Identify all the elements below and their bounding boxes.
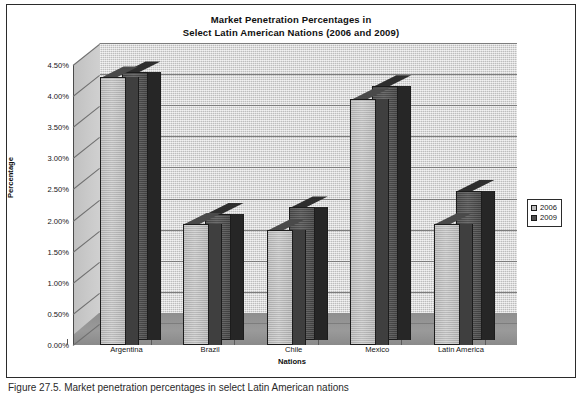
bar-side-face [460, 224, 473, 345]
y-axis-tick-label: 1.50% [33, 248, 69, 257]
y-axis-line [73, 65, 74, 345]
plot-area [47, 33, 517, 343]
y-axis-tick-label: 2.00% [33, 217, 69, 226]
legend-swatch-2006 [531, 205, 537, 211]
y-axis-title: Percentage [6, 157, 15, 198]
bar-side-face [231, 214, 244, 340]
gridline [100, 43, 517, 44]
legend-item-2006: 2006 [531, 203, 557, 213]
bar-side-face [315, 207, 328, 340]
legend-label-2009: 2009 [540, 213, 557, 223]
bar-argentina-2006 [100, 77, 126, 345]
chart-title-line-1: Market Penetration Percentages in [7, 14, 575, 27]
bar-side-face [398, 86, 411, 340]
bar-side-face [482, 191, 495, 340]
bar-chile-2006 [267, 230, 293, 345]
bar-mexico-2006 [350, 99, 376, 345]
plot-left-wall [73, 43, 100, 345]
bar-side-face [148, 72, 161, 340]
bar-front-face [267, 230, 293, 345]
chart-legend: 20062009 [527, 199, 562, 227]
x-axis-tick-label-latin-america: Latin America [438, 345, 484, 354]
bar-front-face [350, 99, 376, 345]
x-axis-tick-label-mexico: Mexico [365, 345, 389, 354]
y-axis-tick-label: 3.50% [33, 123, 69, 132]
legend-swatch-2009 [531, 215, 537, 221]
x-axis-title: Nations [7, 357, 577, 366]
y-axis-tick-label: 0.50% [33, 310, 69, 319]
bar-front-face [434, 224, 460, 345]
chart-screenshot: Market Penetration Percentages in Select… [0, 0, 583, 394]
y-axis-tick-label: 4.00% [33, 92, 69, 101]
x-axis-tick-label-brazil: Brazil [201, 345, 220, 354]
y-axis-tick-label: 3.00% [33, 154, 69, 163]
bar-front-face [100, 77, 126, 345]
bar-side-face [293, 230, 306, 345]
x-axis-tick-mark [67, 339, 68, 345]
bar-side-face [209, 224, 222, 345]
y-axis-ticks: 0.00%0.50%1.00%1.50%2.00%2.50%3.00%3.50%… [7, 33, 69, 353]
figure-caption: Figure 27.5. Market penetration percenta… [8, 382, 583, 393]
gridline [100, 105, 517, 106]
y-axis-tick-label: 4.50% [33, 61, 69, 70]
y-axis-tick-label: 1.00% [33, 279, 69, 288]
bar-side-face [126, 77, 139, 345]
bar-latin-america-2006 [434, 224, 460, 345]
x-axis-tick-label-argentina: Argentina [110, 345, 143, 354]
y-axis-tick-label: 2.50% [33, 185, 69, 194]
bar-brazil-2006 [183, 224, 209, 345]
x-axis-tick-label-chile: Chile [285, 345, 302, 354]
legend-label-2006: 2006 [540, 203, 557, 213]
gridline [100, 136, 517, 137]
bar-front-face [183, 224, 209, 345]
gridline [100, 74, 517, 75]
bar-side-face [376, 99, 389, 345]
chart-frame: Market Penetration Percentages in Select… [6, 4, 576, 378]
gridline [100, 167, 517, 168]
legend-item-2009: 2009 [531, 213, 557, 223]
